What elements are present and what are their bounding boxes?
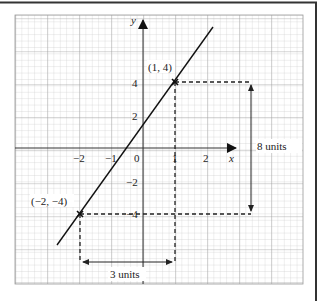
x-tick-label: −2 — [73, 152, 85, 164]
point-b-label: (−2, −4) — [31, 195, 68, 208]
point-a-label: (1, 4) — [148, 61, 172, 74]
coordinate-graph: x y −2 −1 0 1 2 4 2 −2 −4 8 units 3 unit… — [0, 0, 323, 301]
x-tick-label: 2 — [203, 152, 209, 164]
y-tick-label: −2 — [126, 176, 138, 188]
x-axis-label: x — [228, 152, 234, 164]
y-axis-label: y — [130, 14, 136, 26]
y-tick-label: 4 — [132, 77, 138, 89]
x-tick-label: 0 — [134, 152, 140, 164]
run-label: 3 units — [110, 268, 140, 280]
rise-label: 8 units — [257, 140, 287, 152]
x-tick-label: −1 — [105, 152, 117, 164]
y-tick-label: 2 — [132, 110, 138, 122]
